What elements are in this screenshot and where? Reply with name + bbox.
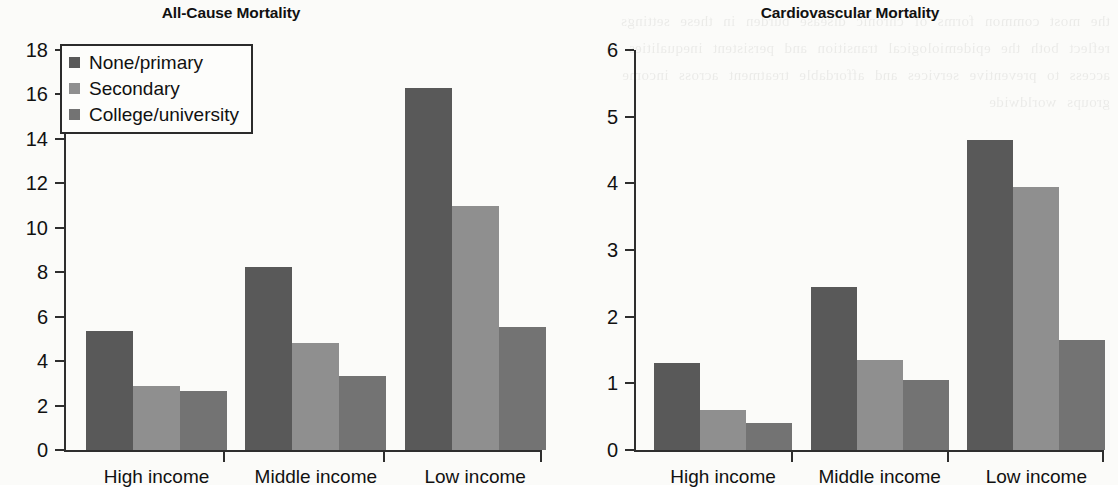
y-axis-tick: 2 — [625, 316, 634, 318]
x-axis-category-label: Low income — [424, 466, 525, 488]
y-axis-tick-label: 4 — [607, 173, 618, 193]
y-axis-tick: 4 — [625, 182, 634, 184]
legend-item: College/university — [69, 101, 239, 127]
x-axis — [64, 450, 542, 452]
legend: None/primary Secondary College/universit… — [60, 44, 253, 134]
x-axis-category-label: Middle income — [255, 466, 378, 488]
bar — [292, 343, 339, 450]
y-axis-tick: 0 — [55, 449, 64, 451]
bar — [903, 380, 949, 450]
bar — [499, 327, 546, 450]
bar — [967, 140, 1013, 450]
y-axis-tick-label: 3 — [607, 240, 618, 260]
y-axis-tick-label: 18 — [26, 40, 48, 60]
x-axis-tick — [791, 451, 793, 462]
y-axis-tick: 1 — [625, 382, 634, 384]
bar — [857, 360, 903, 450]
x-axis — [634, 450, 1104, 452]
x-axis-end-cap — [1102, 451, 1104, 462]
x-axis-category-label: High income — [670, 466, 776, 488]
bar — [700, 410, 746, 450]
legend-item: None/primary — [69, 49, 239, 75]
bar — [180, 391, 227, 450]
bar — [1013, 187, 1059, 450]
y-axis-tick: 8 — [55, 271, 64, 273]
legend-item-label: None/primary — [89, 53, 203, 72]
y-axis-tick: 6 — [625, 49, 634, 51]
y-axis-tick-label: 2 — [607, 307, 618, 327]
y-axis-tick-label: 1 — [607, 373, 618, 393]
y-axis-tick: 4 — [55, 360, 64, 362]
bar — [133, 386, 180, 450]
legend-swatch-icon — [69, 57, 80, 68]
y-axis-tick-label: 6 — [37, 307, 48, 327]
y-axis — [634, 50, 636, 450]
legend-item-label: College/university — [89, 105, 239, 124]
chart-all-cause-mortality: All-Cause Mortality 024681012141618 High… — [0, 0, 558, 485]
x-axis-category-label: Low income — [986, 466, 1087, 488]
legend-item: Secondary — [69, 75, 239, 101]
y-axis-tick-label: 0 — [37, 440, 48, 460]
y-axis-tick: 5 — [625, 116, 634, 118]
y-axis-tick: 10 — [55, 227, 64, 229]
bar — [245, 267, 292, 450]
bar — [405, 88, 452, 450]
bar — [811, 287, 857, 450]
x-axis-tick — [383, 451, 385, 462]
bar — [86, 331, 133, 450]
x-axis-end-cap — [540, 451, 542, 462]
y-axis-tick-label: 14 — [26, 129, 48, 149]
y-axis-tick-label: 2 — [37, 396, 48, 416]
y-axis-tick: 14 — [55, 138, 64, 140]
y-axis-tick: 6 — [55, 316, 64, 318]
bar — [452, 206, 499, 450]
bar — [746, 423, 792, 450]
y-axis-tick-label: 5 — [607, 107, 618, 127]
y-axis-tick-label: 12 — [26, 173, 48, 193]
y-axis-tick: 0 — [625, 449, 634, 451]
x-axis-category-label: Middle income — [818, 466, 941, 488]
x-axis-tick — [223, 451, 225, 462]
legend-swatch-icon — [69, 83, 80, 94]
chart-title: All-Cause Mortality — [0, 4, 510, 22]
bar — [654, 363, 700, 450]
bar — [339, 376, 386, 450]
y-axis-tick-label: 10 — [26, 218, 48, 238]
legend-swatch-icon — [69, 109, 80, 120]
y-axis-tick-label: 0 — [607, 440, 618, 460]
y-axis-tick-label: 4 — [37, 351, 48, 371]
y-axis-tick-label: 8 — [37, 262, 48, 282]
chart-cardiovascular-mortality: Cardiovascular Mortality 0123456 High in… — [558, 0, 1118, 485]
x-axis-category-label: High income — [104, 466, 210, 488]
bar — [1059, 340, 1105, 450]
chart-title: Cardiovascular Mortality — [570, 4, 1118, 22]
legend-item-label: Secondary — [89, 79, 180, 98]
x-axis-tick — [947, 451, 949, 462]
y-axis-tick-label: 6 — [607, 40, 618, 60]
y-axis-tick: 3 — [625, 249, 634, 251]
y-axis-tick: 2 — [55, 405, 64, 407]
plot-area: 0123456 High incomeMiddle incomeLow inco… — [634, 50, 1104, 450]
y-axis-tick-label: 16 — [26, 84, 48, 104]
y-axis-tick: 12 — [55, 182, 64, 184]
